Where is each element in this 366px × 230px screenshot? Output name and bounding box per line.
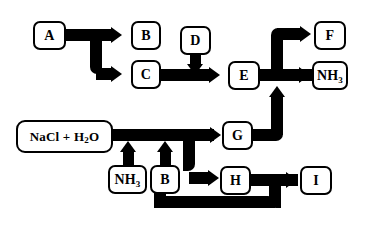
node-nacl-h2o[interactable]: NaCl + H2O (16, 120, 113, 153)
edge-a-trunk (66, 29, 111, 41)
edge-e-to-f-horizontal (277, 28, 302, 40)
edge-bbot-up (160, 152, 171, 166)
node-f[interactable]: F (314, 21, 346, 50)
arrowhead-e-to-nh3 (299, 67, 310, 83)
node-b-top[interactable]: B (131, 21, 161, 50)
node-h[interactable]: H (220, 166, 251, 195)
node-g[interactable]: G (222, 121, 253, 150)
node-e[interactable]: E (228, 61, 260, 90)
formula-nh3: NH3 (317, 68, 343, 83)
node-b-bottom[interactable]: B (150, 165, 180, 194)
edge-g-to-trunk-vertical (271, 95, 283, 135)
formula-nh3-bottom: NH3 (114, 172, 140, 187)
arrowhead-a-to-c (111, 66, 122, 82)
flow-diagram: A B D F C E NH3 NaCl + H2O G NH3 B H I (0, 0, 366, 230)
node-a[interactable]: A (33, 21, 66, 50)
node-i[interactable]: I (300, 166, 332, 195)
edge-nh3bot-up (123, 152, 134, 166)
arrowhead-d-down (187, 64, 203, 75)
node-nh3-top-label: NH3 (317, 69, 343, 83)
arrowhead-h-to-i (286, 172, 297, 188)
edge-recycle-bottom (154, 196, 275, 208)
arrowhead-c-to-e (209, 67, 220, 83)
edge-nacl-trunk (113, 129, 214, 141)
node-nh3-bottom-label: NH3 (114, 173, 140, 187)
arrowhead-a-to-b (111, 27, 122, 43)
node-d[interactable]: D (180, 26, 211, 55)
node-c[interactable]: C (131, 60, 161, 89)
arrowhead-nacl-to-h (208, 170, 219, 186)
arrowhead-g-to-trunk (269, 86, 285, 97)
arrowhead-nh3bot-up (120, 141, 136, 152)
edge-c-to-e (161, 69, 211, 81)
arrowhead-e-to-f (300, 26, 311, 42)
arrowhead-nacl-to-g (210, 127, 221, 143)
edge-nacl-to-h-vertical (183, 135, 195, 171)
arrowhead-bbot-up (157, 141, 173, 152)
node-nacl-h2o-label: NaCl + H2O (30, 130, 100, 143)
formula-nacl-h2o: NaCl + H2O (30, 129, 100, 144)
node-nh3-bottom[interactable]: NH3 (108, 165, 147, 194)
node-nh3-top[interactable]: NH3 (312, 61, 348, 90)
